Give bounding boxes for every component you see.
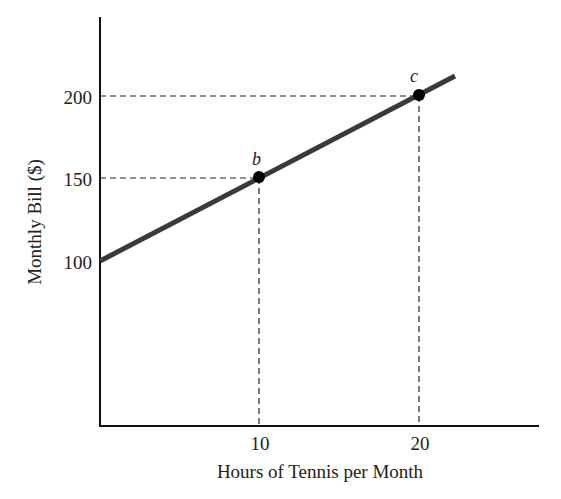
- point-c-label: c: [410, 66, 418, 86]
- y-tick-200: 200: [64, 87, 93, 108]
- point-b: [253, 171, 265, 183]
- y-axis-label: Monthly Bill ($): [24, 159, 46, 285]
- x-axis-label: Hours of Tennis per Month: [217, 461, 424, 482]
- chart: b c 200 150 100 10 20 Hours of Tennis pe…: [0, 0, 561, 499]
- bill-line: [100, 76, 455, 261]
- y-tick-100: 100: [64, 252, 93, 273]
- x-tick-20: 20: [411, 433, 430, 454]
- y-tick-150: 150: [64, 169, 93, 190]
- guide-lines: [100, 96, 419, 426]
- x-tick-10: 10: [251, 433, 270, 454]
- point-c: [413, 89, 425, 101]
- point-b-label: b: [252, 149, 261, 169]
